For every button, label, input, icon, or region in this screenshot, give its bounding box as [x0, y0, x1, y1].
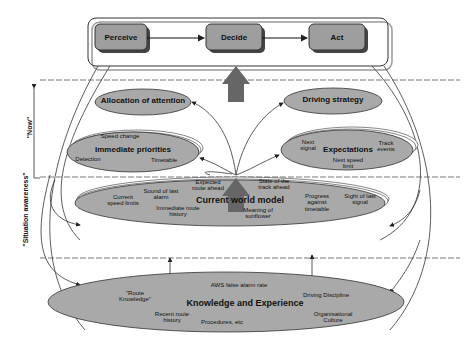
now-axis-label: "Now" [26, 103, 33, 153]
world-item: Current speed limits [106, 194, 140, 207]
knowledge-item: Procedures, etc [198, 319, 246, 325]
immediate-item: Detection [68, 156, 108, 162]
knowledge-item: Driving Discipline [296, 292, 356, 298]
world-item: Expected route ahead [190, 179, 226, 192]
immediate-item: Speed change [100, 133, 140, 139]
world-item: Progress against timetable [300, 193, 334, 212]
decide-box: Decide [206, 33, 262, 42]
world-item: State of the track ahead [256, 178, 292, 191]
knowledge-title: Knowledge and Experience [180, 299, 310, 308]
expectations-title: Expectations [318, 146, 378, 154]
allocation-label: Allocation of attention [95, 97, 191, 105]
expectations-item: Track events [374, 140, 398, 153]
world-item: Sound of last alarm [143, 188, 179, 201]
knowledge-item: AWS false alarm rate [204, 282, 274, 288]
strategy-label: Driving strategy [284, 96, 382, 104]
world-model-title: Current world model [180, 196, 300, 205]
act-box: Act [309, 33, 365, 42]
knowledge-item: Organisational Culture [310, 311, 356, 324]
perceive-box: Perceive [95, 33, 147, 42]
world-item: Meaning of sunflower [240, 207, 276, 220]
immediate-item: Timetable [146, 157, 182, 163]
world-item: Immediate route history [155, 205, 201, 218]
diagram-canvas [0, 0, 469, 349]
immediate-title: Immediate priorities [83, 146, 183, 154]
situation-awareness-label: "Situation awareness" [22, 160, 29, 260]
knowledge-item: "Route Knowledge" [115, 290, 155, 303]
knowledge-item: Recent route history [153, 311, 191, 324]
upward-arrow-now [222, 66, 250, 102]
expectations-item: Next speed limit [331, 157, 365, 170]
expectations-item: Next signal [297, 139, 319, 152]
world-item: Sight of last signal [343, 193, 377, 206]
